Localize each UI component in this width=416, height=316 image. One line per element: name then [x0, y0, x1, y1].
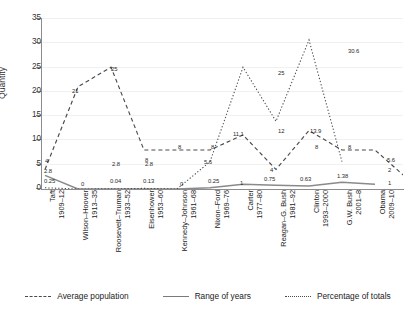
x-label-text: Taft	[49, 190, 57, 282]
x-axis-label-years: 1961–68	[190, 190, 204, 282]
legend-swatch-dashed-icon	[25, 293, 51, 300]
legend-swatch-solid-icon	[163, 293, 189, 300]
x-label-years-text: 2009–10	[388, 190, 396, 282]
x-label-years-text: 1977–80	[256, 190, 264, 282]
data-label: 21	[72, 88, 78, 94]
data-label: 8	[348, 144, 351, 150]
y-tick-label-25: 25	[11, 63, 41, 71]
legend-item-average-population: Average population	[25, 291, 128, 301]
x-label-text: Reagan–G. Bush	[280, 190, 288, 282]
data-label: 2	[388, 167, 391, 173]
chart-legend: Average population Range of years Percen…	[0, 288, 416, 304]
x-axis-label-years: 1969–76	[223, 190, 237, 282]
x-label-text: Kennedy–Johnson	[181, 190, 189, 282]
x-axis-label-years: 2009–10	[388, 190, 402, 282]
x-axis-label-years: 1981–92	[289, 190, 303, 282]
legend-item-range-of-years: Range of years	[163, 291, 251, 301]
data-label: 11.1	[233, 131, 244, 137]
series-layer	[41, 18, 403, 189]
data-label: 0.25	[44, 178, 55, 184]
y-tick-label-20: 20	[11, 87, 41, 95]
x-axis-label-years: 1977–80	[256, 190, 270, 282]
x-label-years-text: 2001–8	[355, 190, 363, 282]
data-label: 1	[388, 180, 391, 186]
y-tick-label-10: 10	[11, 135, 41, 143]
x-label-text: Roosevelt–Truman	[115, 190, 123, 282]
y-tick-label-0: 0	[11, 184, 41, 192]
x-axis-label-years: 1913–35	[91, 190, 105, 282]
line-chart: 35 30 25 20 15 10 5 0 Quantity 421258881…	[0, 0, 416, 316]
x-label-years-text: 1913–35	[91, 190, 99, 282]
y-tick-label-5: 5	[11, 160, 41, 168]
legend-label-percentage-of-totals: Percentage of totals	[317, 291, 391, 301]
x-label-text: Clinton	[313, 190, 321, 282]
x-label-years-text: 1953–60	[157, 190, 165, 282]
data-label: 2.8	[145, 161, 153, 167]
data-label: 25	[278, 70, 284, 76]
x-label-years-text: 1933–52	[124, 190, 132, 282]
x-label-text: G.W. Bush	[346, 190, 354, 282]
data-label: 25	[111, 66, 117, 72]
x-label-years-text: 1961–68	[190, 190, 198, 282]
x-axis-label-years: 1909–12	[58, 190, 72, 282]
legend-label-range-of-years: Range of years	[195, 291, 251, 301]
data-label: 4	[270, 167, 273, 173]
legend-item-percentage-of-totals: Percentage of totals	[285, 291, 391, 301]
data-label: 8	[178, 144, 181, 150]
data-label: 0	[180, 181, 183, 187]
x-axis-labels: Taft1909–12Wilson–Hoover1913–35Roosevelt…	[41, 190, 403, 282]
x-label-years-text: 1909–12	[58, 190, 66, 282]
series-line-average-population	[45, 67, 403, 179]
legend-label-average-population: Average population	[57, 291, 128, 301]
y-tick-label-15: 15	[11, 111, 41, 119]
x-label-text: Obama	[379, 190, 387, 282]
data-label: 2.8	[44, 168, 52, 174]
x-label-text: Nixon–Ford	[214, 190, 222, 282]
data-label: 5.6	[204, 159, 212, 165]
data-label: 1	[240, 180, 243, 186]
data-label: 8	[315, 144, 318, 150]
data-label: 12	[278, 128, 284, 134]
data-label: 0.25	[208, 178, 219, 184]
data-label: 0.75	[264, 176, 275, 182]
x-axis-label-years: 1953–60	[157, 190, 171, 282]
data-label: 13.9	[310, 128, 321, 134]
x-axis-label-years: 2001–8	[355, 190, 369, 282]
data-label: 0.63	[300, 176, 311, 182]
y-axis: 35 30 25 20 15 10 5 0	[0, 0, 41, 316]
data-label: 0.13	[143, 178, 154, 184]
data-label: 30.6	[348, 48, 359, 54]
series-line-percentage-of-totals	[45, 40, 342, 189]
y-axis-title: Quantity	[0, 67, 7, 99]
y-tick-label-30: 30	[11, 38, 41, 46]
data-label: 4	[45, 158, 48, 164]
y-tick-label-35: 35	[11, 14, 41, 22]
legend-swatch-dotted-icon	[285, 293, 311, 300]
x-axis-label-years: 1993–2000	[322, 190, 336, 282]
x-label-years-text: 1981–92	[289, 190, 297, 282]
data-label: 0	[81, 181, 84, 187]
x-axis-label-years: 1933–52	[124, 190, 138, 282]
x-label-text: Wilson–Hoover	[82, 190, 90, 282]
x-label-text: Carter	[247, 190, 255, 282]
x-label-years-text: 1993–2000	[322, 190, 330, 282]
x-label-text: Eisenhower	[148, 190, 156, 282]
x-label-years-text: 1969–76	[223, 190, 231, 282]
data-label: 1.38	[337, 173, 348, 179]
data-label: 8	[211, 144, 214, 150]
data-label: 2.8	[112, 161, 120, 167]
data-label: 0.04	[110, 178, 121, 184]
data-label: 5.6	[387, 157, 395, 163]
